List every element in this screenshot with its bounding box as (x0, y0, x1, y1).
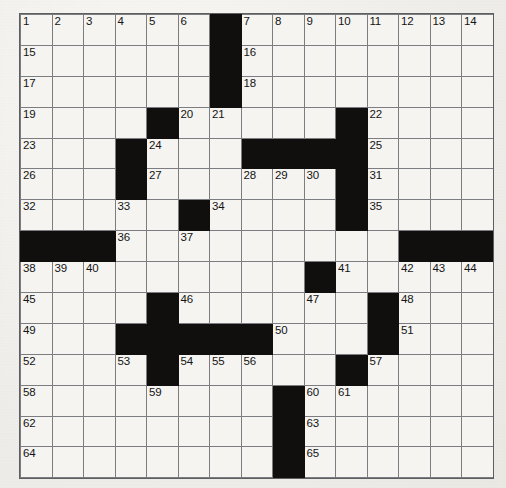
crossword-cell[interactable] (178, 138, 210, 169)
crossword-cell[interactable] (462, 138, 494, 169)
crossword-cell[interactable] (430, 45, 462, 76)
crossword-cell[interactable] (336, 416, 368, 447)
crossword-cell[interactable] (430, 293, 462, 324)
crossword-cell[interactable]: 54 (178, 354, 210, 385)
crossword-cell[interactable] (462, 416, 494, 447)
crossword-cell[interactable] (84, 293, 116, 324)
crossword-cell[interactable]: 36 (115, 231, 147, 262)
crossword-cell[interactable]: 20 (178, 107, 210, 138)
crossword-cell[interactable]: 29 (273, 169, 305, 200)
crossword-cell[interactable]: 52 (21, 354, 53, 385)
crossword-cell[interactable] (462, 107, 494, 138)
crossword-cell[interactable] (241, 416, 273, 447)
crossword-cell[interactable]: 11 (367, 15, 399, 46)
crossword-cell[interactable] (430, 107, 462, 138)
crossword-cell[interactable] (178, 447, 210, 478)
crossword-cell[interactable] (147, 231, 179, 262)
crossword-cell[interactable] (147, 200, 179, 231)
crossword-cell[interactable] (52, 293, 84, 324)
crossword-cell[interactable]: 41 (336, 262, 368, 293)
crossword-cell[interactable]: 61 (336, 385, 368, 416)
crossword-cell[interactable]: 30 (304, 169, 336, 200)
crossword-cell[interactable]: 44 (462, 262, 494, 293)
crossword-cell[interactable] (399, 416, 431, 447)
crossword-cell[interactable]: 43 (430, 262, 462, 293)
crossword-cell[interactable] (462, 385, 494, 416)
crossword-cell[interactable] (399, 138, 431, 169)
crossword-cell[interactable] (399, 76, 431, 107)
crossword-cell[interactable] (430, 76, 462, 107)
crossword-cell[interactable] (52, 45, 84, 76)
crossword-cell[interactable] (52, 200, 84, 231)
crossword-cell[interactable] (367, 45, 399, 76)
crossword-cell[interactable] (273, 200, 305, 231)
crossword-cell[interactable] (84, 138, 116, 169)
crossword-cell[interactable] (52, 107, 84, 138)
crossword-cell[interactable] (399, 45, 431, 76)
crossword-cell[interactable]: 19 (21, 107, 53, 138)
crossword-cell[interactable] (147, 416, 179, 447)
crossword-cell[interactable]: 25 (367, 138, 399, 169)
crossword-cell[interactable] (241, 385, 273, 416)
crossword-cell[interactable]: 46 (178, 293, 210, 324)
crossword-cell[interactable] (178, 45, 210, 76)
crossword-cell[interactable]: 2 (52, 15, 84, 46)
crossword-cell[interactable] (241, 447, 273, 478)
crossword-cell[interactable]: 31 (367, 169, 399, 200)
crossword-cell[interactable] (367, 416, 399, 447)
crossword-cell[interactable] (462, 76, 494, 107)
crossword-cell[interactable] (147, 45, 179, 76)
crossword-cell[interactable] (84, 200, 116, 231)
crossword-cell[interactable] (304, 200, 336, 231)
crossword-cell[interactable]: 18 (241, 76, 273, 107)
crossword-cell[interactable]: 28 (241, 169, 273, 200)
crossword-cell[interactable] (273, 107, 305, 138)
crossword-cell[interactable] (115, 293, 147, 324)
crossword-cell[interactable] (210, 416, 242, 447)
crossword-cell[interactable]: 37 (178, 231, 210, 262)
crossword-cell[interactable] (336, 323, 368, 354)
crossword-cell[interactable] (147, 76, 179, 107)
crossword-cell[interactable]: 21 (210, 107, 242, 138)
crossword-cell[interactable]: 12 (399, 15, 431, 46)
crossword-cell[interactable]: 57 (367, 354, 399, 385)
crossword-cell[interactable] (336, 76, 368, 107)
crossword-cell[interactable]: 45 (21, 293, 53, 324)
crossword-cell[interactable] (210, 262, 242, 293)
crossword-cell[interactable] (241, 231, 273, 262)
crossword-cell[interactable]: 9 (304, 15, 336, 46)
crossword-cell[interactable] (399, 107, 431, 138)
crossword-cell[interactable]: 59 (147, 385, 179, 416)
crossword-cell[interactable] (462, 169, 494, 200)
crossword-cell[interactable]: 38 (21, 262, 53, 293)
crossword-cell[interactable]: 3 (84, 15, 116, 46)
crossword-cell[interactable] (84, 385, 116, 416)
crossword-cell[interactable]: 40 (84, 262, 116, 293)
crossword-cell[interactable] (399, 354, 431, 385)
crossword-cell[interactable] (336, 45, 368, 76)
crossword-cell[interactable] (399, 169, 431, 200)
crossword-cell[interactable] (178, 169, 210, 200)
crossword-cell[interactable] (304, 45, 336, 76)
crossword-cell[interactable] (115, 76, 147, 107)
crossword-cell[interactable]: 5 (147, 15, 179, 46)
crossword-cell[interactable] (430, 385, 462, 416)
crossword-cell[interactable]: 17 (21, 76, 53, 107)
crossword-cell[interactable]: 47 (304, 293, 336, 324)
crossword-cell[interactable]: 56 (241, 354, 273, 385)
crossword-cell[interactable] (273, 262, 305, 293)
crossword-cell[interactable] (462, 200, 494, 231)
crossword-cell[interactable] (367, 76, 399, 107)
crossword-cell[interactable] (52, 385, 84, 416)
crossword-cell[interactable] (84, 107, 116, 138)
crossword-cell[interactable] (399, 200, 431, 231)
crossword-cell[interactable] (115, 45, 147, 76)
crossword-cell[interactable] (210, 169, 242, 200)
crossword-cell[interactable] (430, 138, 462, 169)
crossword-cell[interactable] (52, 323, 84, 354)
crossword-cell[interactable] (273, 76, 305, 107)
crossword-cell[interactable] (241, 262, 273, 293)
crossword-cell[interactable] (462, 354, 494, 385)
crossword-cell[interactable]: 1 (21, 15, 53, 46)
crossword-cell[interactable]: 16 (241, 45, 273, 76)
